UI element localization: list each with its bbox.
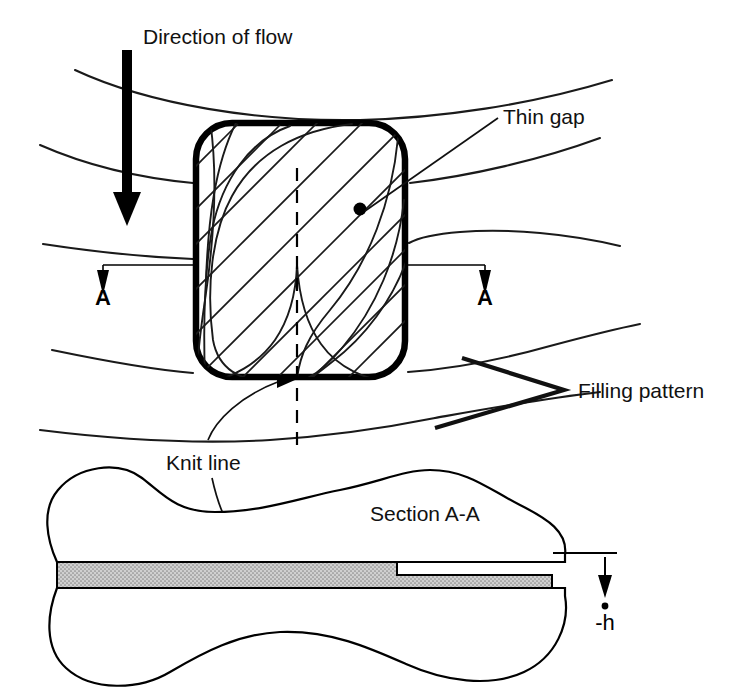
section-aa-label: Section A-A <box>370 502 480 525</box>
insert-outline <box>196 123 405 377</box>
gap-dimension-label: -h <box>595 610 615 635</box>
filling-pattern-label: Filling pattern <box>578 379 704 402</box>
section-marker-right-label: A <box>477 285 493 310</box>
figure-canvas: A A <box>0 0 747 698</box>
technical-diagram-svg: A A <box>0 0 747 698</box>
section-marker-left-label: A <box>95 285 111 310</box>
gap-dimension-dot <box>602 603 609 610</box>
direction-of-flow-label: Direction of flow <box>143 25 293 48</box>
thin-gap-point-marker <box>354 203 367 216</box>
knit-line-label: Knit line <box>166 451 241 474</box>
thin-gap-label: Thin gap <box>503 105 585 128</box>
flow-arrow-shaft <box>122 50 132 202</box>
